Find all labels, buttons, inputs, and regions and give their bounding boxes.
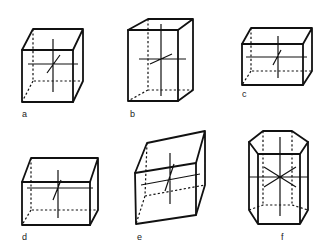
panel-label: f [281,232,284,242]
panel-label: d [22,232,27,242]
panel-label: e [137,232,142,242]
panel-b-tetragonal: b [128,19,193,119]
panel-label: b [130,109,135,119]
crystal-systems-diagram: a b c d e f [0,0,327,250]
panel-e-monoclinic: e [135,131,205,242]
panel-c-orthorhombic: c [242,28,312,99]
panel-label: c [242,89,247,99]
panel-d-box: d [22,158,98,242]
panel-f-hexagonal: f [249,131,308,242]
panel-a-cube: a [22,29,83,119]
panel-label: a [22,109,27,119]
